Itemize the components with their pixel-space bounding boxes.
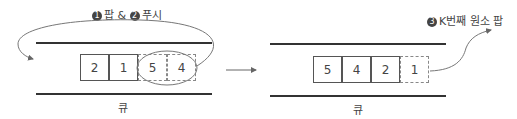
connector-overlay: [0, 0, 517, 119]
highlight-ellipse: [137, 51, 197, 85]
pop-push-curve-arrow: [18, 20, 214, 66]
pop-kth-curve-arrow: [430, 30, 491, 71]
